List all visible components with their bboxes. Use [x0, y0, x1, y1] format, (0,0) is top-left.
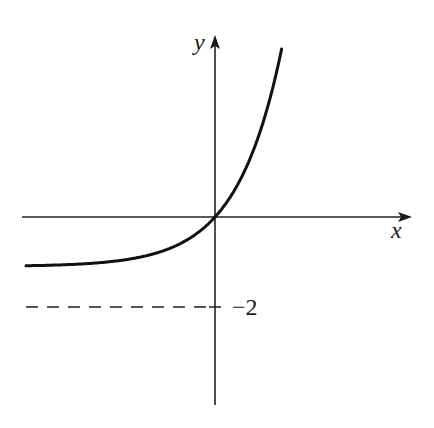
y-axis-label: y [192, 29, 205, 55]
x-axis-label: x [390, 217, 402, 243]
graph-figure: y x −2 [0, 0, 434, 428]
asymptote-label: −2 [232, 294, 258, 320]
function-curve [26, 49, 282, 266]
